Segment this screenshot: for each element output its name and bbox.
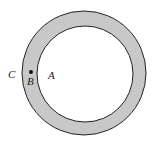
annulus-diagram: C B A <box>0 0 155 150</box>
label-b: B <box>27 75 34 87</box>
label-a: A <box>47 69 55 81</box>
point-b-dot <box>29 70 33 74</box>
label-c: C <box>8 68 16 80</box>
